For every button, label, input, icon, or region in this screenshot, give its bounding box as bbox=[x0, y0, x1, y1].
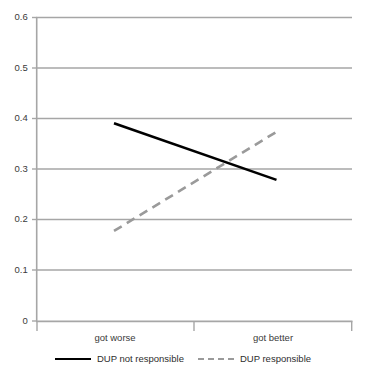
legend-label-dup-not-responsible: DUP not responsible bbox=[97, 353, 184, 364]
x-tick-label-got-better: got better bbox=[233, 332, 313, 343]
legend-item-dup-responsible: DUP responsible bbox=[198, 353, 311, 364]
y-tick-label-0.2: 0.2 bbox=[2, 214, 28, 224]
y-tick-label-0: 0 bbox=[2, 316, 28, 326]
series-line-dup-not-responsible bbox=[114, 123, 277, 180]
legend-label-dup-responsible: DUP responsible bbox=[240, 353, 311, 364]
legend-item-dup-not-responsible: DUP not responsible bbox=[55, 353, 184, 364]
series-line-dup-responsible bbox=[114, 132, 277, 231]
line-chart: 0.6 0.5 0.4 0.3 0.2 0.1 0 got worse got … bbox=[0, 0, 366, 374]
y-tick-label-0.3: 0.3 bbox=[2, 164, 28, 174]
legend-dashed-line-icon bbox=[198, 358, 234, 360]
y-tick-label-0.4: 0.4 bbox=[2, 113, 28, 123]
y-tick-label-0.1: 0.1 bbox=[2, 265, 28, 275]
y-tick-label-0.6: 0.6 bbox=[2, 12, 28, 22]
y-tick-label-0.5: 0.5 bbox=[2, 63, 28, 73]
legend-solid-line-icon bbox=[55, 358, 91, 360]
plot-area bbox=[0, 0, 366, 374]
chart-legend: DUP not responsible DUP responsible bbox=[0, 353, 366, 364]
x-tick-label-got-worse: got worse bbox=[75, 332, 155, 343]
